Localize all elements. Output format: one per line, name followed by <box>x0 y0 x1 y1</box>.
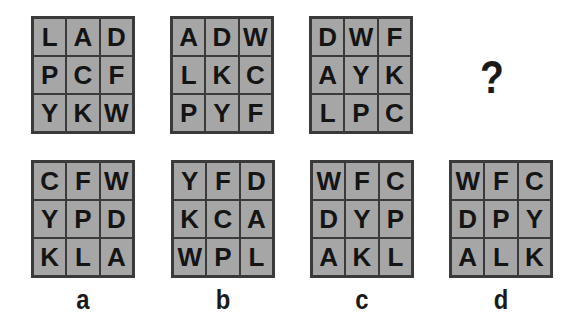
grid-cell: W <box>312 162 345 200</box>
grid-cell: P <box>484 200 517 238</box>
grid-cell: L <box>66 238 99 276</box>
grid-cell: D <box>312 200 345 238</box>
grid-cell: W <box>239 18 272 56</box>
grid-cell: K <box>33 238 66 276</box>
option-grid-b[interactable]: YFDKCAWPL <box>171 160 275 278</box>
grid-cell: Y <box>205 94 238 132</box>
grid-cell: W <box>451 162 484 200</box>
grid-cell: W <box>344 18 377 56</box>
grid-cell: Y <box>33 94 66 132</box>
grid-cell: F <box>100 56 133 94</box>
grid-cell: P <box>172 94 205 132</box>
grid-cell: W <box>100 162 133 200</box>
option-grid-a[interactable]: CFWYPDKLA <box>31 160 135 278</box>
grid-cell: L <box>172 56 205 94</box>
grid-cell: Y <box>345 200 378 238</box>
grid-cell: F <box>239 94 272 132</box>
grid-cell: L <box>311 94 344 132</box>
grid-cell: C <box>33 162 66 200</box>
missing-grid-question-mark: ? <box>480 50 504 104</box>
grid-cell: L <box>484 238 517 276</box>
grid-cell: W <box>100 94 133 132</box>
grid-cell: Y <box>518 200 551 238</box>
grid-cell: C <box>378 94 411 132</box>
grid-cell: P <box>33 56 66 94</box>
grid-cell: D <box>311 18 344 56</box>
grid-cell: K <box>518 238 551 276</box>
grid-cell: P <box>379 200 412 238</box>
grid-cell: A <box>100 238 133 276</box>
grid-cell: K <box>378 56 411 94</box>
grid-cell: C <box>379 162 412 200</box>
grid-cell: A <box>451 238 484 276</box>
grid-cell: A <box>172 18 205 56</box>
grid-cell: P <box>206 238 239 276</box>
option-label-d[interactable]: d <box>457 284 545 316</box>
grid-cell: L <box>379 238 412 276</box>
grid-cell: D <box>100 200 133 238</box>
grid-cell: Y <box>173 162 206 200</box>
grid-cell: A <box>66 18 99 56</box>
grid-cell: C <box>66 56 99 94</box>
grid-cell: P <box>66 200 99 238</box>
grid-cell: L <box>33 18 66 56</box>
grid-cell: K <box>173 200 206 238</box>
option-label-a[interactable]: a <box>39 284 127 316</box>
grid-cell: C <box>206 200 239 238</box>
grid-cell: F <box>345 162 378 200</box>
grid-cell: F <box>484 162 517 200</box>
grid-cell: D <box>100 18 133 56</box>
option-label-b[interactable]: b <box>179 284 267 316</box>
grid-cell: K <box>345 238 378 276</box>
grid-cell: A <box>312 238 345 276</box>
option-grid-c[interactable]: WFCDYPAKL <box>310 160 414 278</box>
question-grid-1: LADPCFYKW <box>31 16 135 134</box>
option-label-c[interactable]: c <box>318 284 406 316</box>
question-grid-3: DWFAYKLPC <box>309 16 413 134</box>
grid-cell: C <box>518 162 551 200</box>
question-grid-2: ADWLKCPYF <box>170 16 274 134</box>
grid-cell: A <box>311 56 344 94</box>
grid-cell: D <box>451 200 484 238</box>
grid-cell: L <box>240 238 273 276</box>
grid-cell: C <box>239 56 272 94</box>
grid-cell: D <box>240 162 273 200</box>
grid-cell: F <box>378 18 411 56</box>
grid-cell: K <box>205 56 238 94</box>
grid-cell: F <box>66 162 99 200</box>
grid-cell: W <box>173 238 206 276</box>
grid-cell: A <box>240 200 273 238</box>
option-grid-d[interactable]: WFCDPYALK <box>449 160 553 278</box>
grid-cell: Y <box>33 200 66 238</box>
grid-cell: K <box>66 94 99 132</box>
grid-cell: Y <box>344 56 377 94</box>
grid-cell: P <box>344 94 377 132</box>
grid-cell: F <box>206 162 239 200</box>
grid-cell: D <box>205 18 238 56</box>
